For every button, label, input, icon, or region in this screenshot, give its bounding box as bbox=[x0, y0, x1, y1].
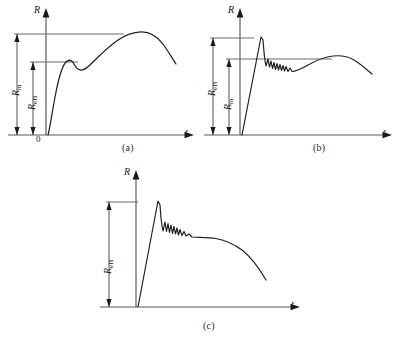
label-rm-b: Rm bbox=[222, 98, 233, 110]
x-axis-label-b: ε bbox=[383, 126, 387, 136]
chart-svg-a bbox=[0, 0, 200, 150]
caption-c: (c) bbox=[203, 320, 215, 331]
stress-strain-curve-b bbox=[242, 37, 372, 135]
stress-strain-curve-a bbox=[48, 32, 176, 135]
dimension-arrow-reh-c bbox=[106, 202, 111, 307]
caption-a: (a) bbox=[122, 142, 134, 153]
label-reh-c: ReH bbox=[102, 260, 113, 274]
y-axis-label-b: R bbox=[228, 4, 234, 15]
figure-container: Rm ReH R ε 0 (a) bbox=[0, 0, 402, 343]
y-axis-label-c: R bbox=[124, 166, 130, 177]
stress-strain-curve-c bbox=[138, 201, 266, 307]
y-axis-c bbox=[133, 170, 140, 307]
chart-panel-b: ReH Rm R ε bbox=[202, 0, 402, 150]
x-axis-c bbox=[100, 304, 300, 310]
chart-panel-a: Rm ReH R ε 0 bbox=[0, 0, 200, 150]
dimension-arrow-rm-b bbox=[226, 59, 231, 135]
chart-svg-c bbox=[96, 162, 311, 322]
label-reh-a: ReH bbox=[26, 96, 37, 110]
chart-panel-c: ReH R ε bbox=[96, 162, 311, 322]
x-axis-b bbox=[204, 132, 392, 138]
label-rm-a: Rm bbox=[10, 84, 21, 96]
origin-label-a: 0 bbox=[36, 134, 41, 144]
y-axis-b bbox=[237, 8, 244, 135]
caption-b: (b) bbox=[313, 142, 325, 153]
y-axis-label-a: R bbox=[34, 4, 40, 15]
x-axis-label-a: ε bbox=[185, 126, 189, 136]
x-axis-label-c: ε bbox=[291, 298, 295, 308]
y-axis-a bbox=[43, 8, 50, 135]
chart-svg-b bbox=[202, 0, 402, 150]
label-reh-b: ReH bbox=[206, 82, 217, 96]
